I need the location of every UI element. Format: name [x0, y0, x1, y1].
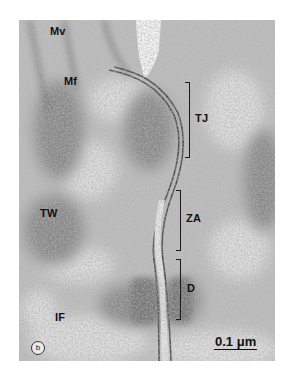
label-microfilaments: Mf [64, 75, 77, 87]
label-microvilli: Mv [50, 25, 66, 37]
label-intermediate-filaments: IF [55, 311, 65, 323]
label-zonula-adherens: ZA [186, 212, 201, 224]
tight-junction-bracket [185, 82, 190, 158]
scale-bar: 0.1 μm [214, 335, 257, 350]
micrograph-texture [19, 20, 275, 361]
panel-label: b [31, 341, 45, 355]
desmosome-bracket [176, 259, 181, 320]
label-terminal-web: TW [40, 207, 58, 219]
zonula-adherens-bracket [176, 190, 181, 251]
label-desmosome: D [187, 282, 195, 294]
label-tight-junction: TJ [195, 112, 208, 124]
electron-micrograph: Mv Mf TW IF TJ ZA D b 0.1 μm [19, 20, 275, 361]
